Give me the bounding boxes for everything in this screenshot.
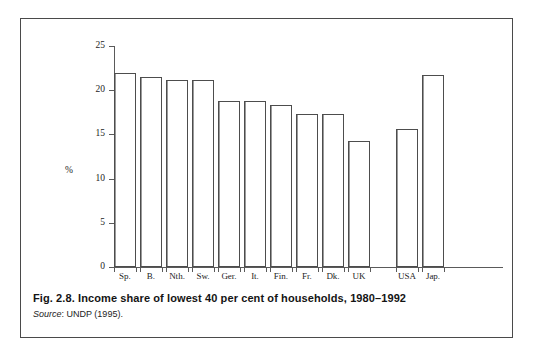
bar-ger [218,101,240,267]
bar-jap [422,75,444,267]
source-text: : UNDP (1995). [62,309,123,319]
bar-sw [192,80,214,267]
x-axis-label-jap: Jap. [413,271,453,281]
bar-sp [114,73,136,267]
x-axis-label-uk: UK [339,271,379,281]
figure-frame: 0510152025 % Sp.B.Nth.Sw.Ger.It.Fin.Fr.D… [20,18,513,338]
source-label: Source [33,309,62,319]
figure-source-line: Source: UNDP (1995). [33,309,503,321]
bar-fin [270,105,292,267]
figure-caption-title: Fig. 2.8. Income share of lowest 40 per … [33,291,503,305]
bar-series: Sp.B.Nth.Sw.Ger.It.Fin.Fr.Dk.UKUSAJap. [21,19,514,277]
figure-caption-block: Fig. 2.8. Income share of lowest 40 per … [33,291,503,321]
bar-dk [322,114,344,267]
chart-plot-area: 0510152025 % Sp.B.Nth.Sw.Ger.It.Fin.Fr.D… [21,19,514,277]
bar-b [140,77,162,267]
bar-usa [396,129,418,267]
bar-it [244,101,266,267]
bar-fr [296,114,318,267]
bar-uk [348,141,370,267]
bar-nth [166,80,188,267]
